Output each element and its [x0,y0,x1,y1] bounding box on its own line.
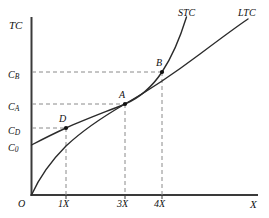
y-tick-label-cd: CD [8,121,20,137]
chart-canvas [0,0,269,218]
c0-sub: 0 [15,145,19,154]
ltc-curve-label: LTC [238,8,256,18]
cb-main: C [8,69,15,80]
point-label-a: A [119,90,125,100]
y-tick-label-c0: C0 [8,138,18,154]
point-marker-d [64,126,68,130]
c0-main: C [8,142,15,153]
point-label-d: D [59,114,66,124]
origin-label: O [18,199,25,209]
y-tick-label-ca: CA [8,97,19,113]
ltc-curve [32,19,249,195]
cost-curves-chart: TC X O CB CA CD C0 1X 3X 4X STC LTC D A … [0,0,269,218]
x-tick-label-4x: 4X [154,199,165,209]
stc-curve-label: STC [178,8,195,18]
y-axis-label: TC [9,20,22,31]
cb-sub: B [15,72,20,81]
point-label-b: B [156,58,162,68]
x-tick-label-1x: 1X [58,199,69,209]
ca-main: C [8,101,15,112]
point-marker-a [123,102,127,106]
ca-sub: A [15,104,20,113]
cd-sub: D [15,128,20,137]
y-tick-label-cb: CB [8,65,19,81]
x-axis-label: X [250,199,257,210]
x-tick-label-3x: 3X [117,199,128,209]
cd-main: C [8,125,15,136]
point-marker-b [160,70,164,74]
